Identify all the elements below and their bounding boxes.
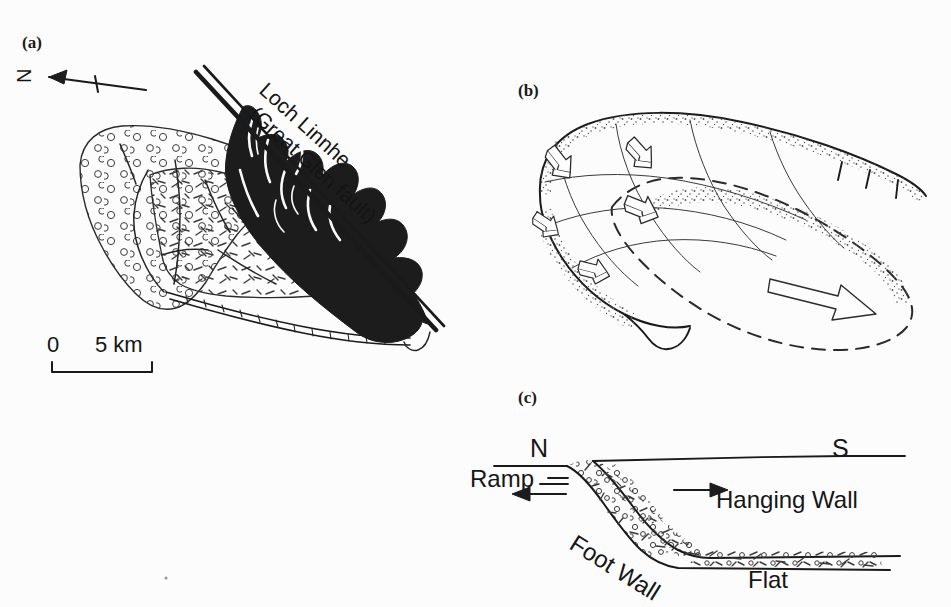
panel-b-label: (b) — [518, 81, 539, 100]
hangingwall-top-surface — [593, 456, 905, 461]
direction-north-label: N — [530, 434, 548, 462]
direction-south-label: S — [832, 434, 849, 462]
scale-bar-start-label: 0 — [47, 332, 59, 357]
panel-c-label: (c) — [518, 388, 537, 407]
panel-a-label: (a) — [22, 33, 42, 52]
north-arrow: N — [13, 69, 146, 92]
large-transport-arrow — [768, 279, 876, 320]
panel-c: (c) N S — [470, 388, 920, 605]
scale-bar: 0 5 km — [47, 332, 152, 372]
scale-bar-end-label: 5 km — [95, 332, 143, 357]
ramp-leader-lines — [540, 478, 568, 484]
north-arrow-label: N — [13, 69, 35, 83]
figure-svg: (a) N — [0, 0, 951, 607]
ramp-label: Ramp — [470, 465, 534, 492]
hanging-wall-label: Hanging Wall — [716, 486, 858, 513]
flat-label: Flat — [748, 566, 788, 593]
panel-a: (a) N — [13, 33, 444, 372]
small-block-arrow — [620, 133, 662, 176]
panel-b: (b) — [518, 81, 926, 350]
scan-speck — [164, 576, 167, 579]
stipple-margin-upper — [540, 113, 926, 196]
figure-canvas: (a) N — [0, 0, 951, 607]
